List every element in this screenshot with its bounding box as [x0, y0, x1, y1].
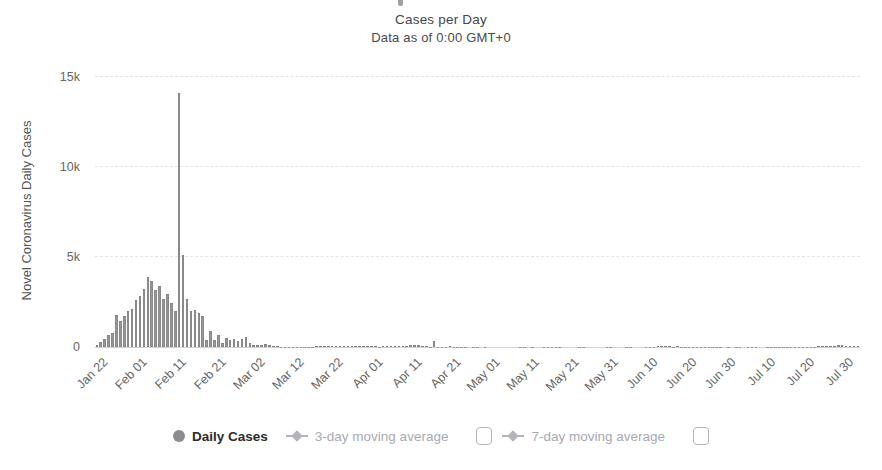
bar — [127, 311, 130, 347]
bar — [413, 345, 416, 347]
bar — [135, 300, 138, 347]
bar — [209, 331, 212, 347]
x-tick-label: Jun 20 — [663, 355, 699, 391]
bar — [205, 340, 208, 347]
bar — [107, 335, 110, 347]
bar — [821, 346, 824, 347]
bar — [264, 344, 267, 347]
bar — [347, 346, 350, 347]
legend-item-7day-avg[interactable]: 7-day moving average — [502, 429, 665, 444]
bar — [198, 313, 201, 347]
bar — [201, 316, 204, 347]
x-tick-label: Mar 02 — [230, 355, 267, 392]
y-axis-tick-labels: 05k10k15k — [0, 67, 88, 347]
bar — [252, 345, 255, 347]
bar — [370, 346, 373, 347]
x-tick-label: Mar 12 — [270, 355, 307, 392]
bar — [857, 346, 860, 347]
gridline — [95, 256, 860, 257]
bar — [386, 346, 389, 347]
bar — [315, 346, 318, 347]
diamond-line-marker-icon — [286, 430, 308, 442]
bar — [245, 337, 248, 347]
x-tick-label: Jul 20 — [784, 355, 817, 388]
bar — [339, 346, 342, 347]
bar — [433, 341, 436, 347]
bar — [354, 346, 357, 347]
bar — [178, 93, 181, 347]
bar — [841, 345, 844, 347]
bar — [99, 342, 102, 347]
bar — [331, 346, 334, 347]
x-axis-tick-labels: Jan 22Feb 01Feb 11Feb 21Mar 02Mar 12Mar … — [95, 353, 860, 408]
bar — [319, 346, 322, 347]
chart-subtitle: Data as of 0:00 GMT+0 — [0, 30, 882, 45]
bar — [676, 346, 679, 347]
bar — [323, 346, 326, 347]
bar — [221, 343, 224, 347]
bar — [398, 346, 401, 347]
legend-label: 7-day moving average — [531, 429, 665, 444]
bar — [119, 321, 122, 347]
bar — [229, 340, 232, 347]
legend-item-3day-avg[interactable]: 3-day moving average — [286, 429, 449, 444]
bar — [256, 345, 259, 347]
x-tick-label: Jun 30 — [702, 355, 738, 391]
bar — [186, 299, 189, 347]
bar — [449, 346, 452, 347]
bar — [390, 346, 393, 347]
bar — [174, 311, 177, 347]
checkbox-7day-avg[interactable] — [693, 427, 709, 445]
bar — [382, 346, 385, 347]
x-tick-label: Mar 22 — [309, 355, 346, 392]
bar — [225, 338, 228, 347]
bar — [194, 310, 197, 347]
bar — [358, 346, 361, 347]
checkbox-3day-avg[interactable] — [476, 427, 492, 445]
gridline — [95, 166, 860, 167]
bar — [115, 315, 118, 347]
bar — [672, 347, 675, 348]
bar — [166, 294, 169, 348]
bar — [217, 335, 220, 347]
y-tick-label: 0 — [0, 340, 80, 354]
x-tick-label: Apr 21 — [428, 355, 464, 391]
bar — [668, 346, 671, 347]
bar — [849, 346, 852, 347]
y-tick-label: 5k — [0, 250, 80, 264]
bar — [402, 346, 405, 347]
bar — [351, 346, 354, 347]
chart-container: Cases per Day Data as of 0:00 GMT+0 Nove… — [0, 0, 882, 470]
legend-item-daily-cases[interactable]: Daily Cases — [173, 429, 268, 444]
bar — [272, 346, 275, 347]
y-tick-label: 10k — [0, 160, 80, 174]
x-tick-label: Feb 01 — [113, 355, 150, 392]
bar — [233, 339, 236, 347]
diamond-line-marker-icon — [502, 430, 524, 442]
bar — [845, 346, 848, 347]
x-axis-line — [95, 347, 860, 348]
cropped-element-artifact — [398, 0, 403, 6]
bar — [829, 346, 832, 347]
bar — [111, 333, 114, 347]
bar — [158, 286, 161, 347]
bar — [660, 346, 663, 347]
bar — [327, 346, 330, 347]
bar — [366, 346, 369, 347]
bar — [237, 341, 240, 347]
x-tick-label: Apr 11 — [389, 355, 424, 390]
bar — [837, 345, 840, 347]
bar — [664, 346, 667, 347]
x-tick-label: Feb 11 — [153, 355, 190, 392]
bar — [421, 346, 424, 347]
bar — [131, 309, 134, 347]
bar — [813, 347, 816, 348]
bar — [362, 346, 365, 347]
bar — [343, 346, 346, 347]
bar — [162, 299, 165, 347]
bar — [182, 255, 185, 347]
bar — [260, 345, 263, 348]
circle-marker-icon — [173, 430, 185, 442]
bar — [190, 311, 193, 347]
bar — [150, 281, 153, 347]
